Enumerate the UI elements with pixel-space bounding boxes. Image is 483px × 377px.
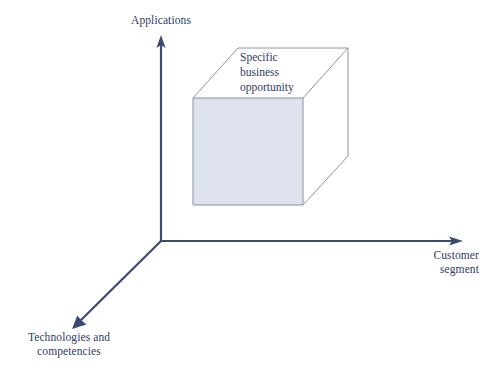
cube-label-line1: Specific <box>240 51 278 63</box>
axis-label-technologies-line1: Technologies and <box>28 331 110 343</box>
cube-label-line3: opportunity <box>240 81 294 93</box>
axis-label-technologies-line2: competencies <box>37 345 101 357</box>
axis-label-technologies-and-competencies: Technologies andcompetencies <box>2 330 136 358</box>
axis-line-technologies <box>79 241 161 322</box>
axis-label-customer-segment-line1: Customer <box>433 249 479 261</box>
cube-label-line2: business <box>240 66 279 78</box>
cube-label-specific-business-opportunity: Specificbusinessopportunity <box>240 50 338 95</box>
axis-label-applications: Applications <box>106 13 216 27</box>
axis-label-customer-segment: Customersegment <box>395 248 479 276</box>
cube-front-face <box>193 98 303 205</box>
axis-label-customer-segment-line2: segment <box>440 263 479 275</box>
diagram-canvas: Applications Customersegment Technologie… <box>0 0 483 377</box>
